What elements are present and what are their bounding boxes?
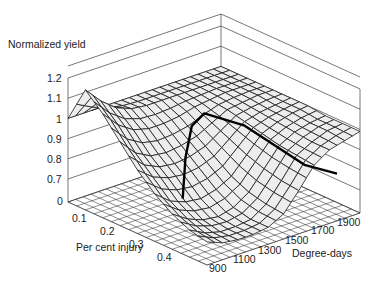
y-tick: 1900 <box>337 216 361 228</box>
y-axis-title: Degree-days <box>292 247 352 259</box>
z-tick: 0.7 <box>47 173 62 185</box>
z-tick: 0.9 <box>47 133 62 145</box>
z-axis-title: Normalized yield <box>8 38 86 50</box>
x-tick: 0.1 <box>72 212 87 224</box>
x-tick: 0.4 <box>157 251 172 263</box>
z-tick: 1.1 <box>47 92 62 104</box>
x-tick: 0.3 <box>129 238 144 250</box>
surface-chart: Normalized yield Per cent injury Degree-… <box>0 0 376 282</box>
y-tick: 1300 <box>258 244 282 256</box>
z-tick: 0.8 <box>47 153 62 165</box>
y-tick: 1500 <box>285 234 309 246</box>
y-tick: 1100 <box>233 253 256 265</box>
x-tick: 0.2 <box>100 225 115 237</box>
y-tick: 900 <box>209 262 227 274</box>
surface-plot-svg: Normalized yield Per cent injury Degree-… <box>0 0 376 282</box>
z-tick: 1 <box>56 113 62 125</box>
z-tick: 0 <box>57 195 63 207</box>
y-tick: 1700 <box>311 224 335 236</box>
z-tick: 1.2 <box>47 72 62 84</box>
